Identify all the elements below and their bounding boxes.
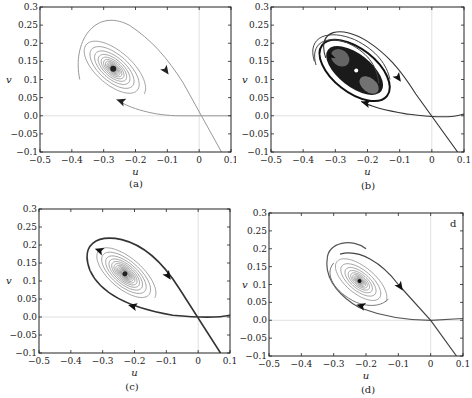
y-tick-label: −0.05 (241, 129, 269, 139)
y-tick-label: −0.1 (16, 147, 38, 157)
x-tick-label: 0 (195, 356, 201, 366)
y-axis-label: v (6, 275, 12, 286)
direction-arrow-icon (160, 65, 172, 77)
x-tick-label: 0.1 (224, 155, 236, 165)
x-tick-label: −0.3 (93, 155, 115, 165)
y-tick-label: 0.3 (253, 208, 268, 218)
x-tick-label: −0.4 (292, 155, 314, 165)
y-tick-label: 0.15 (18, 56, 38, 66)
y-tick-label: 0.25 (247, 226, 267, 236)
x-tick-label: 0 (429, 155, 435, 165)
x-tick-label: −0.1 (156, 155, 178, 165)
unstable-manifold (361, 101, 464, 117)
y-tick-label: 0.1 (23, 276, 37, 286)
y-tick-label: −0.05 (10, 129, 38, 139)
phase-plot-a: −0.5−0.4−0.3−0.2−0.100.1−0.1−0.050.00.05… (0, 0, 236, 199)
y-tick-label: 0.15 (17, 258, 37, 268)
x-axis-label: u (364, 166, 370, 177)
x-axis-label: u (132, 166, 138, 177)
caption-a: (a) (116, 178, 156, 189)
stable-manifold (78, 20, 221, 152)
y-tick-label: 0.0 (253, 315, 268, 325)
x-tick-label: 0.1 (456, 359, 470, 369)
equilibrium-point (110, 66, 116, 72)
y-axis-label: v (242, 279, 248, 290)
y-tick-label: 0.2 (255, 38, 269, 48)
y-axis-label: v (242, 74, 248, 85)
x-tick-label: −0.1 (387, 359, 409, 369)
outer-trajectory (327, 243, 463, 321)
y-tick-label: 0.2 (253, 244, 267, 254)
axes-frame (40, 7, 231, 152)
x-tick-label: −0.2 (357, 155, 379, 165)
x-tick-label: −0.1 (389, 155, 411, 165)
y-tick-label: 0.25 (249, 20, 269, 30)
y-tick-label: −0.1 (245, 351, 267, 361)
y-tick-label: 0.1 (253, 280, 267, 290)
y-tick-label: 0.3 (255, 2, 270, 12)
caption-c: (c) (112, 381, 152, 392)
x-axis-label: u (131, 367, 137, 378)
y-tick-label: 0.2 (23, 240, 37, 250)
phase-plot-c: −0.5−0.4−0.3−0.2−0.100.1−0.1−0.050.00.05… (0, 199, 236, 398)
y-tick-label: −0.1 (247, 147, 269, 157)
x-tick-label: −0.2 (355, 359, 377, 369)
x-axis-label: u (363, 370, 369, 381)
equilibrium-point (354, 68, 358, 72)
x-tick-label: −0.4 (61, 155, 83, 165)
equilibrium-point (122, 271, 127, 276)
x-tick-label: −0.2 (125, 155, 147, 165)
y-tick-label: 0.15 (247, 262, 267, 272)
x-tick-label: −0.3 (92, 356, 114, 366)
direction-arrow-icon (162, 270, 174, 282)
caption-d: (d) (348, 384, 388, 395)
y-tick-label: 0.15 (249, 56, 269, 66)
y-tick-label: −0.05 (9, 330, 37, 340)
phase-plot-b: −0.5−0.4−0.3−0.2−0.100.1−0.1−0.050.00.05… (236, 0, 472, 199)
unstable-manifold (116, 99, 231, 115)
homoclinic-orbit (87, 238, 230, 353)
y-tick-label: 0.05 (249, 93, 269, 103)
x-tick-label: −0.4 (60, 356, 82, 366)
y-tick-label: 0.0 (23, 312, 38, 322)
phase-plot-d: −0.5−0.4−0.3−0.2−0.100.1−0.1−0.050.00.05… (236, 199, 472, 398)
x-tick-label: −0.2 (124, 356, 146, 366)
y-tick-label: 0.05 (18, 93, 38, 103)
caption-b: (b) (348, 180, 388, 191)
x-tick-label: −0.3 (324, 155, 346, 165)
x-tick-label: 0.1 (457, 155, 471, 165)
panel-d: −0.5−0.4−0.3−0.2−0.100.1−0.1−0.050.00.05… (236, 199, 472, 398)
x-tick-label: 0.1 (223, 356, 236, 366)
y-tick-label: 0.0 (24, 111, 39, 121)
y-tick-label: −0.1 (15, 348, 37, 358)
panel-a: −0.5−0.4−0.3−0.2−0.100.1−0.1−0.050.00.05… (0, 0, 236, 199)
y-tick-label: 0.0 (255, 111, 270, 121)
equilibrium-point (358, 279, 362, 283)
corner-label: d (450, 218, 457, 229)
y-tick-label: 0.25 (17, 222, 37, 232)
y-tick-label: 0.3 (24, 2, 39, 12)
x-tick-label: 0 (428, 359, 434, 369)
y-tick-label: 0.3 (23, 204, 38, 214)
panel-b: −0.5−0.4−0.3−0.2−0.100.1−0.1−0.050.00.05… (236, 0, 472, 199)
y-axis-label: v (6, 74, 12, 85)
y-tick-label: 0.1 (255, 75, 269, 85)
panel-c: −0.5−0.4−0.3−0.2−0.100.1−0.1−0.050.00.05… (0, 199, 236, 398)
y-tick-label: 0.05 (17, 294, 37, 304)
x-tick-label: 0 (196, 155, 202, 165)
direction-arrow-icon (93, 245, 104, 256)
y-tick-label: −0.05 (239, 333, 267, 343)
y-tick-label: 0.05 (247, 297, 267, 307)
y-tick-label: 0.25 (18, 20, 38, 30)
x-tick-label: −0.3 (323, 359, 345, 369)
y-tick-label: 0.1 (24, 75, 38, 85)
x-tick-label: −0.4 (290, 359, 312, 369)
y-tick-label: 0.2 (24, 38, 38, 48)
x-tick-label: −0.1 (155, 356, 177, 366)
